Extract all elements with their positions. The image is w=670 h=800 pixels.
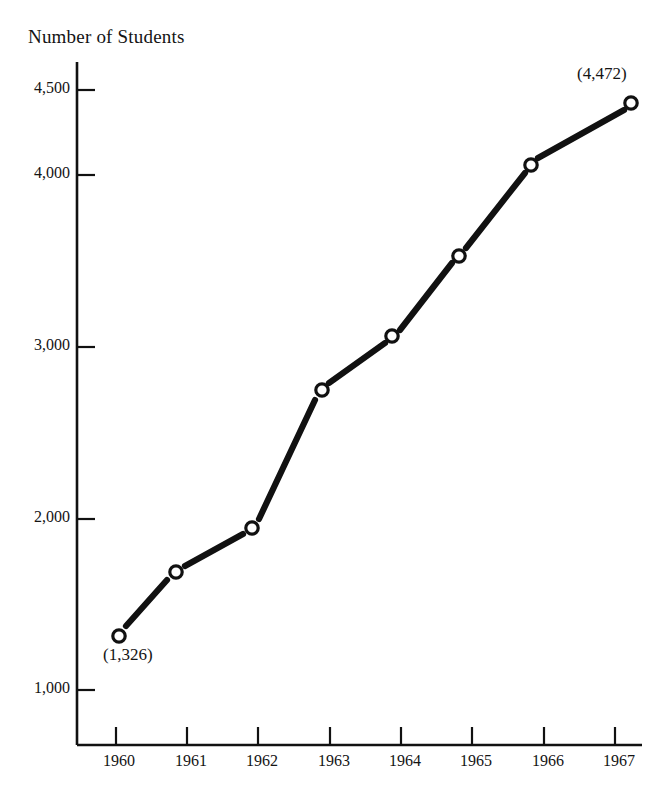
x-tick-label-1962: 1962 (227, 752, 297, 770)
x-tick-label-1966: 1966 (513, 752, 583, 770)
data-point-1964 (386, 330, 398, 342)
x-tick-label-1961: 1961 (156, 752, 226, 770)
line-segment-1963-1964 (329, 343, 385, 383)
x-tick-label-1963: 1963 (299, 752, 369, 770)
data-point-1963 (316, 384, 328, 396)
x-tick-label-1960: 1960 (84, 752, 154, 770)
line-segment-1961-1962 (185, 534, 243, 566)
data-point-1966 (525, 159, 537, 171)
line-segment-1965-1966 (466, 173, 525, 248)
line-chart: Number of Students (0, 0, 670, 800)
line-segment-1964-1965 (400, 263, 452, 330)
data-point-1967 (625, 97, 637, 109)
y-tick-label-1000: 1,000 (8, 679, 70, 697)
line-segment-1962-1963 (259, 400, 315, 519)
data-series-line (126, 110, 624, 626)
y-tick-label-3000: 3,000 (8, 336, 70, 354)
data-point-1965 (453, 250, 465, 262)
y-tick-label-4500: 4,500 (8, 79, 70, 97)
y-axis-ticks (77, 90, 95, 690)
annotation-last-point: (4,472) (577, 64, 627, 84)
x-tick-label-1965: 1965 (441, 752, 511, 770)
data-point-1961 (170, 566, 182, 578)
y-tick-label-4000: 4,000 (8, 164, 70, 182)
data-point-1960 (113, 630, 125, 642)
line-segment-1960-1961 (126, 580, 167, 626)
x-tick-label-1967: 1967 (584, 752, 654, 770)
x-axis-ticks (116, 727, 615, 745)
chart-plot-area (0, 0, 670, 800)
x-tick-label-1964: 1964 (370, 752, 440, 770)
data-point-1962 (246, 522, 258, 534)
annotation-first-point: (1,326) (103, 645, 153, 665)
y-tick-label-2000: 2,000 (8, 508, 70, 526)
line-segment-1966-1967 (538, 110, 624, 158)
